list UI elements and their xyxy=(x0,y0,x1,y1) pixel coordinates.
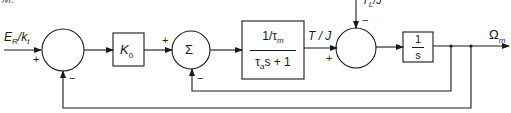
motor-denominator: τas + 1 xyxy=(248,56,298,71)
disturbance-label-tail: /J xyxy=(373,0,382,6)
sum1-minus-sign: − xyxy=(69,73,75,84)
output-label-main: Ω xyxy=(489,27,499,42)
motor-denominator-tail: s + 1 xyxy=(264,55,290,69)
gain-block-label: K0 xyxy=(120,43,133,60)
top-cut-text: M. xyxy=(2,0,14,5)
integrator-transfer-function: 1 s xyxy=(406,34,430,61)
fraction-bar xyxy=(250,50,296,51)
sum3-plus-sign: + xyxy=(326,53,332,64)
integrator-denominator: s xyxy=(406,50,430,61)
disturbance-label: TL/J xyxy=(362,0,382,9)
sum1-plus-sign: + xyxy=(33,54,39,65)
input-label-main: E xyxy=(4,30,12,44)
summing-junction-1 xyxy=(42,29,84,71)
integrator-fraction-bar xyxy=(412,47,424,48)
output-label: Ωm xyxy=(489,28,505,45)
input-label-tail-sub: t xyxy=(27,37,29,46)
sum2-plus-sign: + xyxy=(162,35,168,46)
gain-symbol: K xyxy=(120,42,129,57)
motor-block-transfer-function: 1/τm τas + 1 xyxy=(248,30,298,72)
motor-numerator-sub: m xyxy=(277,36,284,45)
branch-point-inner xyxy=(449,44,452,47)
summing-junction-3 xyxy=(336,28,376,68)
input-label: ER/kt xyxy=(4,31,29,46)
output-label-sub: m xyxy=(499,36,506,45)
input-label-tail: /k xyxy=(18,30,27,44)
motor-numerator: 1/τm xyxy=(248,30,298,45)
block-diagram: M. ER/kt + − K0 + Σ − 1/τm τas + 1 T / J… xyxy=(0,0,511,113)
sum3-minus-sign: − xyxy=(362,15,368,26)
branch-point-outer xyxy=(469,44,472,47)
sum2-sigma: Σ xyxy=(185,43,193,56)
integrator-numerator: 1 xyxy=(406,34,430,45)
sum2-minus-sign: − xyxy=(197,73,203,84)
torque-signal-label: T / J xyxy=(308,30,331,42)
motor-numerator-text: 1/τ xyxy=(262,29,277,43)
disturbance-label-main: T xyxy=(362,0,369,6)
gain-sub: 0 xyxy=(129,51,133,60)
